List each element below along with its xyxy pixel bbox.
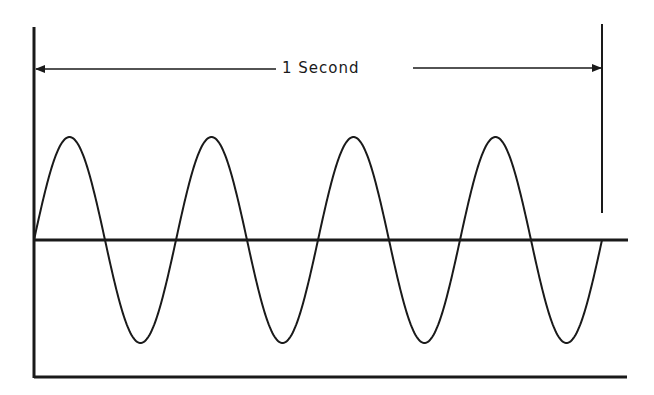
span-label: 1 Second	[282, 59, 360, 77]
